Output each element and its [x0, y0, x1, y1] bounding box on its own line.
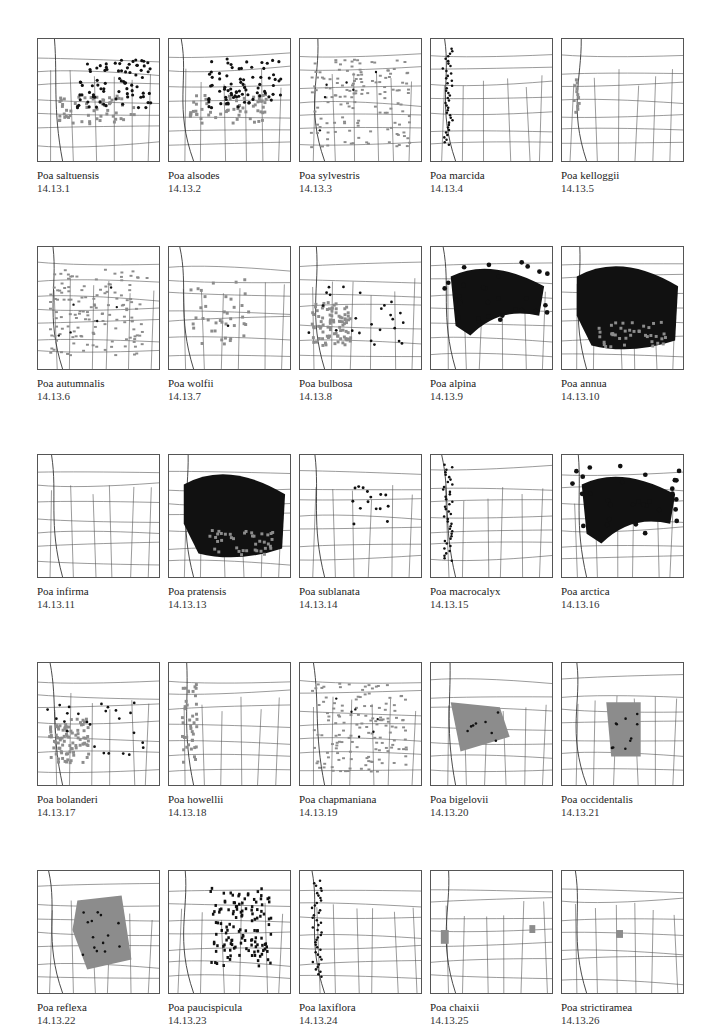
map-figure-14-13-3: Poa sylvestris 14.13.3 [299, 38, 422, 195]
species-name: Poa laxiflora [299, 1001, 422, 1014]
species-name: Poa infirma [37, 585, 160, 598]
map-number: 14.13.13 [168, 598, 291, 611]
species-name: Poa strictiramea [561, 1001, 684, 1014]
map-number: 14.13.3 [299, 182, 422, 195]
distribution-map [168, 38, 291, 162]
map-figure-14-13-7: Poa wolfii 14.13.7 [168, 246, 291, 403]
map-number: 14.13.25 [430, 1014, 553, 1027]
species-name: Poa alpina [430, 377, 553, 390]
species-name: Poa reflexa [37, 1001, 160, 1014]
map-number: 14.13.14 [299, 598, 422, 611]
map-figure-14-13-6: Poa autumnalis 14.13.6 [37, 246, 160, 403]
distribution-map [430, 662, 553, 786]
map-figure-14-13-22: Poa reflexa 14.13.22 [37, 870, 160, 1027]
species-name: Poa pratensis [168, 585, 291, 598]
map-figure-14-13-25: Poa chaixii 14.13.25 [430, 870, 553, 1027]
map-figure-14-13-2: Poa alsodes 14.13.2 [168, 38, 291, 195]
map-number: 14.13.16 [561, 598, 684, 611]
map-number: 14.13.19 [299, 806, 422, 819]
distribution-map [299, 38, 422, 162]
species-name: Poa bigelovii [430, 793, 553, 806]
distribution-map [299, 246, 422, 370]
species-name: Poa autumnalis [37, 377, 160, 390]
distribution-map [37, 662, 160, 786]
map-number: 14.13.1 [37, 182, 160, 195]
species-name: Poa occidentalis [561, 793, 684, 806]
map-number: 14.13.9 [430, 390, 553, 403]
distribution-map [561, 662, 684, 786]
map-figure-14-13-5: Poa kelloggii 14.13.5 [561, 38, 684, 195]
species-name: Poa sublanata [299, 585, 422, 598]
map-figure-14-13-18: Poa howellii 14.13.18 [168, 662, 291, 819]
map-number: 14.13.15 [430, 598, 553, 611]
distribution-map [299, 870, 422, 994]
map-figure-14-13-4: Poa marcida 14.13.4 [430, 38, 553, 195]
species-name: Poa macrocalyx [430, 585, 553, 598]
species-name: Poa marcida [430, 169, 553, 182]
distribution-map [299, 454, 422, 578]
distribution-map [430, 870, 553, 994]
map-figure-14-13-13: Poa pratensis 14.13.13 [168, 454, 291, 611]
map-number: 14.13.7 [168, 390, 291, 403]
map-figure-14-13-10: Poa annua 14.13.10 [561, 246, 684, 403]
map-number: 14.13.10 [561, 390, 684, 403]
distribution-map [37, 246, 160, 370]
map-number: 14.13.20 [430, 806, 553, 819]
distribution-map [430, 454, 553, 578]
map-figure-14-13-15: Poa macrocalyx 14.13.15 [430, 454, 553, 611]
distribution-map [561, 454, 684, 578]
distribution-map [37, 454, 160, 578]
distribution-map [299, 662, 422, 786]
map-number: 14.13.26 [561, 1014, 684, 1027]
map-figure-14-13-8: Poa bulbosa 14.13.8 [299, 246, 422, 403]
species-name: Poa annua [561, 377, 684, 390]
species-name: Poa chaixii [430, 1001, 553, 1014]
map-number: 14.13.18 [168, 806, 291, 819]
map-figure-14-13-24: Poa laxiflora 14.13.24 [299, 870, 422, 1027]
distribution-map [168, 870, 291, 994]
species-name: Poa arctica [561, 585, 684, 598]
map-figure-14-13-17: Poa bolanderi 14.13.17 [37, 662, 160, 819]
species-name: Poa chapmaniana [299, 793, 422, 806]
map-figure-14-13-19: Poa chapmaniana 14.13.19 [299, 662, 422, 819]
species-name: Poa bulbosa [299, 377, 422, 390]
species-name: Poa bolanderi [37, 793, 160, 806]
distribution-map [37, 870, 160, 994]
map-figure-14-13-26: Poa strictiramea 14.13.26 [561, 870, 684, 1027]
map-figure-14-13-11: Poa infirma 14.13.11 [37, 454, 160, 611]
distribution-map [561, 38, 684, 162]
map-number: 14.13.6 [37, 390, 160, 403]
map-figure-14-13-14: Poa sublanata 14.13.14 [299, 454, 422, 611]
map-number: 14.13.2 [168, 182, 291, 195]
species-name: Poa howellii [168, 793, 291, 806]
species-name: Poa kelloggii [561, 169, 684, 182]
distribution-map [561, 246, 684, 370]
map-figure-14-13-21: Poa occidentalis 14.13.21 [561, 662, 684, 819]
map-number: 14.13.5 [561, 182, 684, 195]
species-name: Poa alsodes [168, 169, 291, 182]
map-figure-14-13-20: Poa bigelovii 14.13.20 [430, 662, 553, 819]
map-number: 14.13.21 [561, 806, 684, 819]
map-figure-14-13-16: Poa arctica 14.13.16 [561, 454, 684, 611]
species-name: Poa sylvestris [299, 169, 422, 182]
map-figure-14-13-1: Poa saltuensis 14.13.1 [37, 38, 160, 195]
map-number: 14.13.24 [299, 1014, 422, 1027]
distribution-map [37, 38, 160, 162]
map-number: 14.13.11 [37, 598, 160, 611]
species-name: Poa paucispicula [168, 1001, 291, 1014]
distribution-map [168, 454, 291, 578]
distribution-map [430, 38, 553, 162]
map-number: 14.13.17 [37, 806, 160, 819]
map-grid: Poa saltuensis 14.13.1 Poa alsodes 14.13… [37, 38, 684, 1027]
map-number: 14.13.23 [168, 1014, 291, 1027]
distribution-map [168, 662, 291, 786]
distribution-map [168, 246, 291, 370]
species-name: Poa saltuensis [37, 169, 160, 182]
map-number: 14.13.22 [37, 1014, 160, 1027]
map-number: 14.13.8 [299, 390, 422, 403]
map-figure-14-13-23: Poa paucispicula 14.13.23 [168, 870, 291, 1027]
species-name: Poa wolfii [168, 377, 291, 390]
map-figure-14-13-9: Poa alpina 14.13.9 [430, 246, 553, 403]
distribution-map [430, 246, 553, 370]
map-number: 14.13.4 [430, 182, 553, 195]
